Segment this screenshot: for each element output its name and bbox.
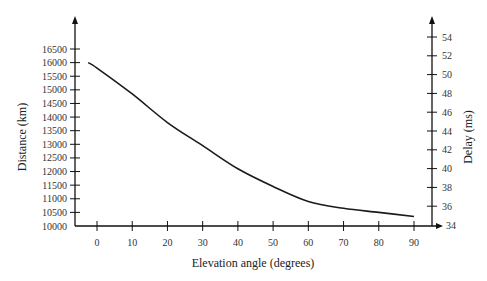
y2-tick-label: 52: [442, 50, 452, 61]
y2-tick-label: 36: [442, 201, 452, 212]
distance-curve: [88, 63, 414, 217]
y-tick-label: 16000: [42, 57, 67, 68]
axes: 1000010500110001150012000125001300013500…: [42, 16, 456, 248]
y2-tick-label: 40: [442, 163, 452, 174]
y-tick-label: 15500: [42, 71, 67, 82]
distance-delay-chart: 1000010500110001150012000125001300013500…: [0, 0, 487, 281]
x-tick-label: 70: [339, 237, 349, 248]
y2-tick-label: 38: [442, 182, 452, 193]
y2-axis-title: Delay (ms): [461, 110, 475, 164]
y-axis-arrow-icon: [72, 16, 78, 24]
y-tick-label: 12000: [42, 166, 67, 177]
y-tick-label: 14000: [42, 112, 67, 123]
y2-tick-label: 50: [442, 69, 452, 80]
x-tick-label: 90: [409, 237, 419, 248]
y2-tick-label: 42: [442, 144, 452, 155]
y-tick-label: 13000: [42, 139, 67, 150]
y-tick-label: 12500: [42, 152, 67, 163]
distance-line: [88, 63, 414, 217]
y-axis-title: Distance (km): [15, 103, 29, 171]
y2-tick-label: 34: [446, 220, 456, 231]
y-tick-label: 16500: [42, 44, 67, 55]
y-tick-label: 14500: [42, 98, 67, 109]
y-tick-label: 15000: [42, 84, 67, 95]
x-tick-label: 60: [303, 237, 313, 248]
x-tick-label: 40: [233, 237, 243, 248]
y-tick-label: 10500: [42, 207, 67, 218]
y2-tick-label: 48: [442, 88, 452, 99]
y-tick-label: 10000: [42, 221, 67, 232]
y2-tick-label: 46: [442, 107, 452, 118]
y-tick-label: 11000: [42, 193, 67, 204]
x-tick-label: 10: [127, 237, 137, 248]
x-tick-label: 30: [198, 237, 208, 248]
x-axis-title: Elevation angle (degrees): [192, 256, 315, 270]
x-tick-label: 50: [268, 237, 278, 248]
y2-tick-label: 54: [442, 32, 452, 43]
x-tick-label: 80: [374, 237, 384, 248]
x-tick-label: 0: [95, 237, 100, 248]
y-tick-label: 11500: [42, 180, 67, 191]
x-tick-label: 20: [162, 237, 172, 248]
x-axis-arrow-icon: [436, 223, 443, 229]
y2-tick-label: 44: [442, 126, 452, 137]
y-tick-label: 13500: [42, 125, 67, 136]
y2-axis-arrow-icon: [429, 16, 435, 24]
